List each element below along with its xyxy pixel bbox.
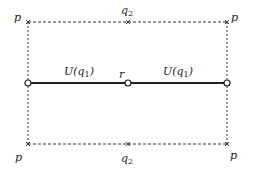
label-p-bottom-right: p (230, 150, 237, 161)
label-u-q1-right: U(q1) (163, 66, 193, 79)
left-endpoint (25, 80, 31, 86)
label-p-top-left: p (14, 12, 21, 23)
label-q2-top: q2 (121, 5, 133, 18)
diagram-canvas (0, 0, 254, 175)
right-endpoint (224, 80, 230, 86)
label-p-top-right: p (231, 12, 238, 23)
label-r: r (119, 69, 124, 80)
label-u-q1-left: U(q1) (64, 66, 94, 79)
label-q2-bottom: q2 (121, 153, 133, 166)
label-p-bottom-left: p (15, 152, 22, 163)
center-point-r (125, 80, 131, 86)
